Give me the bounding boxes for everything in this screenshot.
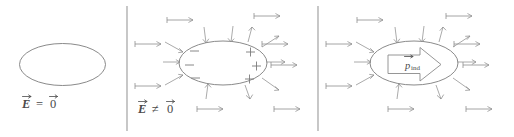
induced-dipole-arrow: p ind xyxy=(388,48,441,82)
charge-plus xyxy=(246,48,255,57)
panel-dipole-moment: p ind xyxy=(326,13,492,112)
svg-text:0: 0 xyxy=(50,97,56,111)
panel-no-field: E = 0 E = 0 xyxy=(0,0,106,111)
svg-text:=: = xyxy=(36,97,43,111)
induced-charges-panel2 xyxy=(185,48,261,84)
svg-text:E: E xyxy=(21,97,30,111)
dipole-symbol: p xyxy=(404,60,410,71)
polarization-figure: E = 0 E = 0 xyxy=(0,0,514,137)
dipole-subscript: ind xyxy=(411,64,420,72)
charge-plus xyxy=(252,62,261,71)
svg-text:E: E xyxy=(137,102,146,116)
panel-field-charges: E ≠ 0 E ≠ 0 xyxy=(0,0,300,116)
svg-text:0: 0 xyxy=(167,102,173,116)
svg-text:≠: ≠ xyxy=(152,102,159,116)
external-field-arrows-panel2 xyxy=(135,13,300,112)
caption-panel1: E = 0 E = 0 xyxy=(0,0,58,111)
dielectric-ellipse-panel1 xyxy=(20,44,106,86)
